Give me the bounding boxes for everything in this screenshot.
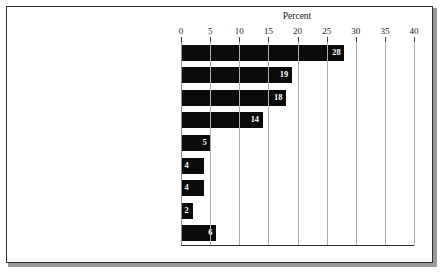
x-axis-baseline (181, 245, 414, 246)
gridline-30 (356, 42, 357, 246)
gridline-5 (210, 42, 211, 246)
x-tick-label-15: 15 (264, 26, 273, 36)
gridline-40 (414, 42, 415, 246)
gridline-25 (327, 42, 328, 246)
x-tick-label-10: 10 (235, 26, 244, 36)
x-tick-label-25: 25 (322, 26, 331, 36)
x-tick-label-5: 5 (208, 26, 213, 36)
x-tick-label-20: 20 (293, 26, 302, 36)
gridline-20 (298, 42, 299, 246)
gridline-0 (181, 42, 182, 246)
gridline-15 (268, 42, 269, 246)
gridline-35 (385, 42, 386, 246)
x-tick-label-0: 0 (179, 26, 184, 36)
x-tick-label-30: 30 (351, 26, 360, 36)
chart-figure: Percent 0510152025303540 Loading/unloadi… (0, 0, 445, 275)
gridline-10 (239, 42, 240, 246)
x-tick-label-35: 35 (380, 26, 389, 36)
axis-title-percent: Percent (283, 11, 312, 21)
x-tick-label-40: 40 (410, 26, 419, 36)
plot-area (181, 42, 414, 246)
